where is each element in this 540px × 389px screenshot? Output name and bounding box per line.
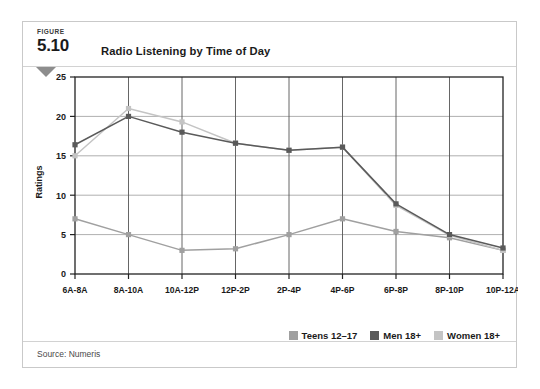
legend-swatch-women-icon: [434, 331, 443, 340]
data-point-marker: [72, 142, 77, 147]
svg-text:8A-10A: 8A-10A: [114, 285, 144, 295]
svg-text:4P-6P: 4P-6P: [331, 285, 355, 295]
data-point-marker: [72, 216, 77, 221]
source-text: Source: Numeris: [37, 349, 100, 359]
data-point-marker: [126, 114, 131, 119]
svg-text:10P-12A: 10P-12A: [486, 285, 518, 295]
legend-item-teens: Teens 12–17: [289, 330, 358, 341]
data-point-marker: [393, 229, 398, 234]
figure-header: FIGURE 5.10 Radio Listening by Time of D…: [23, 22, 516, 67]
data-point-marker: [126, 232, 131, 237]
svg-text:12P-2P: 12P-2P: [221, 285, 250, 295]
figure-kicker: FIGURE: [37, 27, 93, 36]
data-point-marker: [286, 232, 291, 237]
svg-text:10A-12P: 10A-12P: [165, 285, 199, 295]
svg-text:10: 10: [56, 191, 66, 201]
data-point-marker: [233, 246, 238, 251]
svg-text:0: 0: [61, 269, 66, 279]
figure-number-block: FIGURE 5.10: [37, 27, 93, 55]
legend-swatch-teens-icon: [289, 331, 298, 340]
data-point-marker: [126, 106, 131, 111]
figure-title: Radio Listening by Time of Day: [101, 45, 270, 57]
data-point-marker: [393, 201, 398, 206]
data-point-marker: [179, 248, 184, 253]
legend-swatch-men-icon: [370, 331, 379, 340]
figure-page: FIGURE 5.10 Radio Listening by Time of D…: [0, 0, 540, 389]
chart-area: Ratings 05101520256A-8A8A-10A10A-12P12P-…: [23, 67, 516, 323]
data-point-marker: [340, 216, 345, 221]
data-point-marker: [447, 232, 452, 237]
data-point-marker: [233, 141, 238, 146]
svg-text:25: 25: [56, 72, 66, 82]
data-point-marker: [340, 145, 345, 150]
figure-container: FIGURE 5.10 Radio Listening by Time of D…: [22, 21, 517, 368]
legend-label-men: Men 18+: [383, 330, 421, 341]
svg-text:6A-8A: 6A-8A: [63, 285, 88, 295]
legend-item-men: Men 18+: [370, 330, 421, 341]
data-point-marker: [286, 148, 291, 153]
legend-item-women: Women 18+: [434, 330, 500, 341]
svg-text:15: 15: [56, 151, 66, 161]
source-band: Source: Numeris: [23, 341, 516, 367]
svg-text:8P-10P: 8P-10P: [435, 285, 464, 295]
figure-number: 5.10: [37, 36, 93, 55]
svg-text:20: 20: [56, 112, 66, 122]
legend-label-women: Women 18+: [447, 330, 500, 341]
svg-text:2P-4P: 2P-4P: [277, 285, 301, 295]
data-point-marker: [500, 245, 505, 250]
data-point-marker: [72, 153, 77, 158]
legend-label-teens: Teens 12–17: [302, 330, 358, 341]
data-point-marker: [179, 130, 184, 135]
data-point-marker: [179, 119, 184, 124]
line-chart-plot: 05101520256A-8A8A-10A10A-12P12P-2P2P-4P4…: [23, 67, 518, 323]
svg-text:6P-8P: 6P-8P: [384, 285, 408, 295]
svg-text:5: 5: [61, 230, 66, 240]
